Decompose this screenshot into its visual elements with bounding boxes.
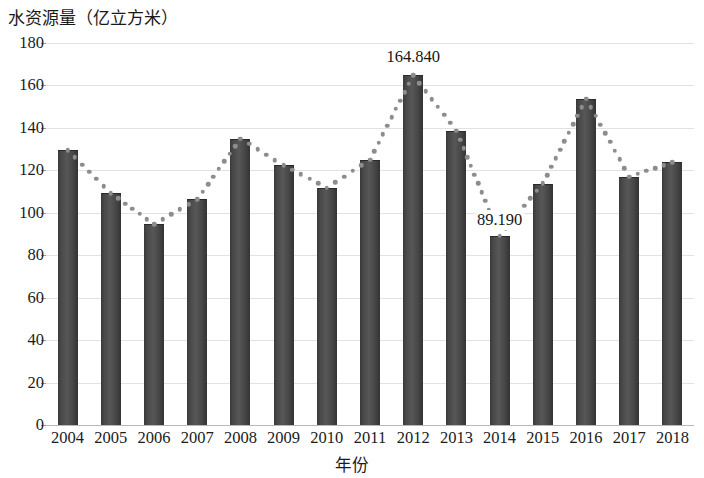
- trend-dot: [178, 207, 183, 212]
- trend-dot: [376, 141, 381, 146]
- bar-2015: [533, 184, 553, 426]
- trend-dot: [571, 122, 576, 127]
- trend-dot: [429, 97, 434, 102]
- trend-dot: [222, 159, 227, 164]
- trend-dot: [472, 172, 477, 177]
- trend-dot: [333, 180, 338, 185]
- water-resources-bar-chart: 水资源量（亿立方米） 180160140120100806040200 2004…: [0, 0, 704, 478]
- gridline-160: [46, 85, 694, 86]
- trend-dot: [448, 121, 453, 126]
- trend-dot: [554, 156, 559, 161]
- trend-dot: [299, 172, 304, 177]
- x-axis-label-2004: 2004: [51, 428, 84, 448]
- y-axis-label-0: 0: [4, 417, 44, 434]
- x-axis-label-2012: 2012: [397, 428, 430, 448]
- trend-dot: [389, 115, 394, 120]
- trend-dot: [442, 113, 447, 118]
- gridline-140: [46, 128, 694, 129]
- trend-dot: [479, 190, 484, 195]
- trend-dot: [273, 158, 278, 163]
- bar-2011: [360, 160, 380, 425]
- x-axis-label-2017: 2017: [613, 428, 646, 448]
- trend-dot: [264, 152, 269, 157]
- y-axis-label-180: 180: [4, 35, 44, 52]
- y-axis-label-80: 80: [4, 247, 44, 264]
- trend-dot: [130, 206, 135, 211]
- bar-2018: [662, 162, 682, 425]
- trend-dot: [145, 217, 150, 222]
- bar-2014: [490, 236, 510, 425]
- y-axis-label-40: 40: [4, 332, 44, 349]
- x-axis-label-2015: 2015: [526, 428, 559, 448]
- gridline-180: [46, 43, 694, 44]
- trend-dot: [342, 174, 347, 179]
- x-axis-label-2013: 2013: [440, 428, 473, 448]
- data-label-2012: 164.840: [384, 47, 442, 67]
- bar-2005: [101, 193, 121, 425]
- trend-dot: [598, 122, 603, 127]
- trend-dot: [558, 147, 563, 152]
- trend-dot: [483, 199, 488, 204]
- bar-2013: [446, 131, 466, 425]
- x-axis-label-2014: 2014: [483, 428, 516, 448]
- trend-dot: [316, 181, 321, 186]
- bar-2017: [619, 177, 639, 425]
- y-axis-label-60: 60: [4, 290, 44, 307]
- trend-dot: [603, 131, 608, 136]
- trend-dot: [255, 147, 260, 152]
- y-axis-label-20: 20: [4, 375, 44, 392]
- trend-dot: [381, 132, 386, 137]
- gridline-0: [46, 425, 694, 426]
- chart-title: 水资源量（亿立方米）: [8, 4, 178, 29]
- bar-2007: [187, 199, 207, 425]
- trend-dot: [436, 105, 441, 110]
- trend-dot: [566, 130, 571, 135]
- bar-2016: [576, 99, 596, 425]
- y-axis-label-100: 100: [4, 205, 44, 222]
- plot-area: [46, 43, 694, 425]
- trend-dot: [101, 184, 106, 189]
- x-axis-label-2009: 2009: [267, 428, 300, 448]
- trend-dot: [562, 139, 567, 144]
- trend-dot: [545, 173, 550, 178]
- bar-2012: [403, 75, 423, 425]
- trend-dot: [617, 157, 622, 162]
- x-axis-label-2010: 2010: [310, 428, 343, 448]
- bar-2008: [230, 139, 250, 426]
- x-axis-label-2011: 2011: [354, 428, 386, 448]
- trend-dot: [160, 217, 165, 222]
- trend-dot: [476, 181, 481, 186]
- trend-dot: [549, 164, 554, 169]
- trend-dot: [80, 162, 85, 167]
- bar-2006: [144, 224, 164, 425]
- x-axis-label-2016: 2016: [570, 428, 603, 448]
- x-axis-label-2008: 2008: [224, 428, 257, 448]
- trend-dot: [372, 149, 377, 154]
- trend-dot: [613, 148, 618, 153]
- trend-dot: [522, 204, 527, 209]
- x-axis-label-2007: 2007: [181, 428, 214, 448]
- trend-dot: [307, 177, 312, 182]
- trend-dot: [206, 182, 211, 187]
- x-axis-label-2006: 2006: [138, 428, 171, 448]
- bar-2010: [317, 188, 337, 425]
- y-axis-label-120: 120: [4, 162, 44, 179]
- trend-dot: [608, 140, 613, 145]
- trend-dot: [423, 89, 428, 94]
- trend-dot: [123, 201, 128, 206]
- data-label-2014: 89.190: [475, 210, 524, 230]
- x-axis-label-2018: 2018: [656, 428, 689, 448]
- trend-dot: [211, 174, 216, 179]
- trend-dot: [398, 98, 403, 103]
- y-axis-label-140: 140: [4, 120, 44, 137]
- trend-dot: [636, 172, 641, 177]
- y-axis-label-160: 160: [4, 77, 44, 94]
- trend-dot: [94, 177, 99, 182]
- x-axis-label-2005: 2005: [94, 428, 127, 448]
- bar-2004: [58, 150, 78, 425]
- trend-dot: [394, 107, 399, 112]
- trend-dot: [200, 190, 205, 195]
- x-axis-title: 年份: [0, 452, 704, 476]
- trend-dot: [469, 164, 474, 169]
- bar-2009: [274, 165, 294, 425]
